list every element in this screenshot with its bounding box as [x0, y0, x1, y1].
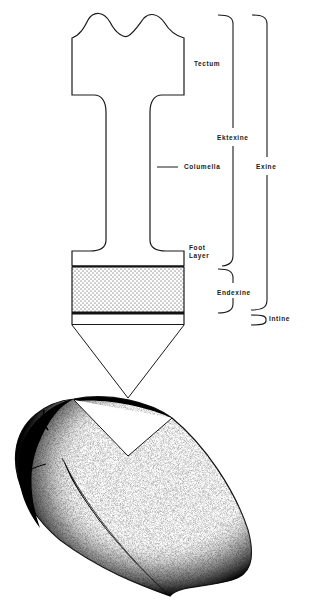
label-intine: Intine — [269, 315, 290, 323]
label-foot-layer-line1: Foot — [189, 244, 205, 252]
label-ektexine: Ektexine — [217, 134, 249, 142]
label-endexine: Endexine — [217, 289, 251, 297]
endexine-intine-boundary — [72, 312, 184, 315]
pollen-wall-diagram — [0, 0, 309, 609]
tectum-columella-outline — [72, 13, 184, 266]
label-tectum: Tectum — [194, 60, 220, 68]
endexine-band — [72, 267, 184, 312]
pollen-grain — [15, 397, 251, 596]
label-exine: Exine — [256, 163, 276, 171]
label-columella: Columella — [184, 163, 220, 171]
intine-bracket — [251, 315, 266, 325]
label-foot-layer-line2: Layer — [189, 252, 209, 260]
magnification-cone — [72, 325, 184, 398]
